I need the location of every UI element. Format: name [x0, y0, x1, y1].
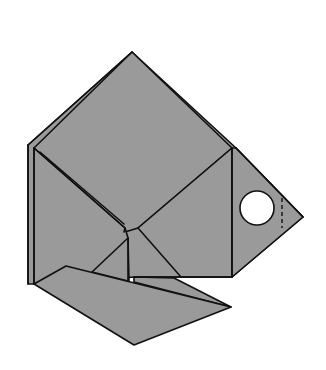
center-vertical-crease — [128, 238, 129, 281]
origami-fish-diagram: Origami fish folding diagram — [0, 0, 326, 370]
eye-icon — [240, 191, 274, 225]
